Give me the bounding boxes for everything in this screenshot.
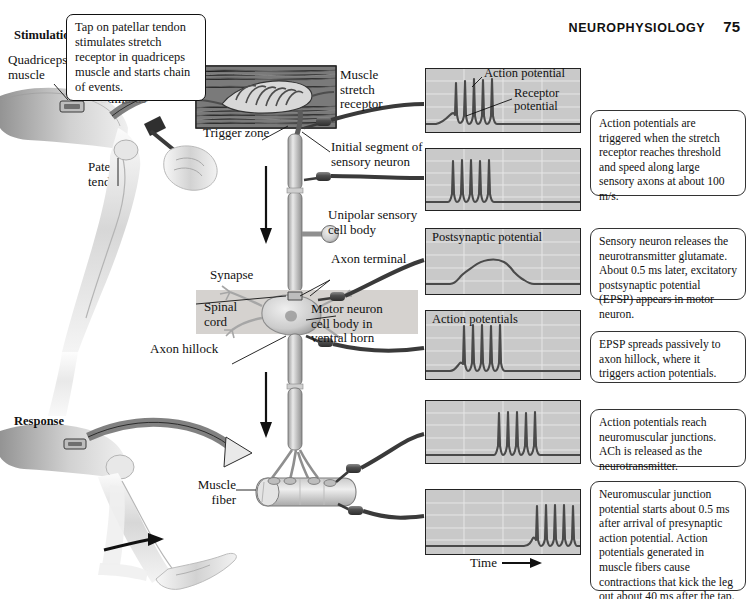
recording-panel-4: Action potentials [425,310,581,380]
note-3: EPSP spreads passively to axon hillock, … [590,331,746,383]
callout-bubble: Tap on patellar tendon stimulates stretc… [66,14,206,101]
recording-panel-1: Action potential Receptor potential [425,68,581,133]
label-axon-terminal: Axon terminal [331,252,406,267]
arrow-right-icon [502,558,542,568]
recording-panel-3: Postsynaptic potential [425,228,581,295]
trace-6 [426,490,580,554]
label-unipolar-cell-body: Unipolar sensory cell body [328,208,417,237]
figure-page: NEUROPHYSIOLOGY 75 Stimulation Quadricep… [0,0,752,599]
note-1: Action potentials are triggered when the… [590,110,746,196]
trace-label-postsynaptic-potential: Postsynaptic potential [432,231,542,245]
label-axon-hillock: Axon hillock [150,342,218,357]
trace-label-action-potentials: Action potentials [432,313,518,327]
label-muscle-fiber: Muscle fiber [178,478,236,507]
note-2: Sensory neuron releases the neurotransmi… [590,228,746,300]
section-label-response: Response [14,414,64,429]
label-spinal-cord: Spinal cord [204,300,237,329]
recording-panel-5 [425,400,581,464]
note-5: Neuromuscular junction potential starts … [590,481,746,591]
trace-2 [426,149,580,210]
trace-1-leaders [426,69,582,134]
recording-panel-2 [425,148,581,211]
time-axis: Time [470,556,542,571]
label-motor-neuron-soma: Motor neuron cell body in ventral horn [311,302,383,346]
note-4: Action potentials reach neuromuscular ju… [590,409,746,467]
label-trigger-zone: Trigger zone [203,126,269,141]
time-axis-label: Time [470,556,497,571]
label-initial-segment: Initial segment of sensory neuron [331,140,423,169]
label-muscle-stretch-receptor: Muscle stretch receptor [340,68,383,112]
trace-5 [426,401,580,463]
label-synapse: Synapse [210,268,253,283]
recording-panel-6 [425,489,581,555]
